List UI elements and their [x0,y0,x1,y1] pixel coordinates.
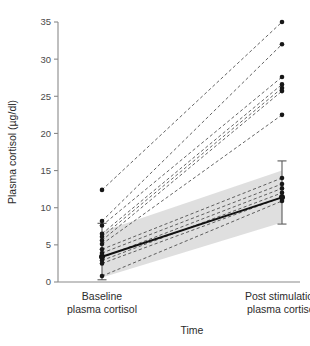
baseline-data-point [100,219,105,224]
post-data-point [280,199,285,204]
baseline-data-point [100,274,105,279]
subject-line [102,22,282,190]
y-axis-tick-label: 20 [40,128,51,139]
y-axis-tick-label: 15 [40,165,51,176]
baseline-data-point [100,223,105,228]
y-axis-title: Plasma cortisol (µg/dl) [6,100,18,204]
axis-labels-group: 05101520253035Plasma cortisol (µg/dl)Bas… [6,16,310,336]
x-axis-title: Time [181,324,204,336]
y-axis-tick-label: 0 [46,276,51,287]
post-data-point [280,176,285,181]
post-data-point [280,182,285,187]
chart-figure: 05101520253035Plasma cortisol (µg/dl)Bas… [0,0,310,346]
post-data-point [280,113,285,118]
y-axis-tick-label: 5 [46,239,51,250]
ci-band-group [102,171,282,278]
confidence-band [102,171,282,278]
post-data-point [280,75,285,80]
baseline-data-point [100,261,105,266]
y-axis-tick-label: 35 [40,16,51,27]
baseline-data-point [100,188,105,193]
post-data-point [280,20,285,25]
x-axis-category-sublabel: plasma cortisol [67,303,137,315]
y-axis-tick-label: 25 [40,91,51,102]
baseline-data-point [100,251,105,256]
y-axis-tick-label: 10 [40,202,51,213]
baseline-data-point [100,242,105,247]
post-data-point [280,89,285,94]
plasma-cortisol-paired-plot: 05101520253035Plasma cortisol (µg/dl)Bas… [0,0,310,346]
x-axis-category-sublabel: plasma cortisol [247,303,310,315]
y-axis-tick-label: 30 [40,54,51,65]
x-axis-category-label: Baseline [82,290,122,302]
post-data-point [280,191,285,196]
post-data-point [280,186,285,191]
post-data-point [280,42,285,47]
x-axis-category-label: Post stimulation [245,290,310,302]
